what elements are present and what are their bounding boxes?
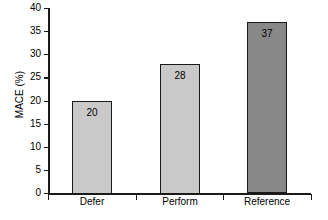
- y-tick-mark: [44, 77, 48, 78]
- y-tick-label: 0: [35, 188, 41, 198]
- y-tick-label: 5: [35, 165, 41, 175]
- y-tick-label: 30: [30, 49, 41, 59]
- y-axis-line: [48, 8, 50, 194]
- y-axis-title: MACE (%): [14, 35, 25, 155]
- y-tick-label: 35: [30, 26, 41, 36]
- plot-area: 0510152025303540 202837: [48, 8, 311, 194]
- x-axis-label-perform: Perform: [136, 196, 224, 207]
- y-tick-label: 10: [30, 142, 41, 152]
- x-axis-label-defer: Defer: [48, 196, 136, 207]
- bar-defer: 20: [72, 101, 112, 194]
- x-axis-label-reference: Reference: [223, 196, 311, 207]
- y-tick-mark: [44, 54, 48, 55]
- y-tick-mark: [44, 101, 48, 102]
- y-tick-mark: [44, 170, 48, 171]
- y-tick-label: 15: [30, 119, 41, 129]
- y-tick-mark: [44, 31, 48, 32]
- y-tick-mark: [44, 124, 48, 125]
- y-tick-label: 25: [30, 72, 41, 82]
- y-tick-label: 20: [30, 96, 41, 106]
- bar-reference: 37: [247, 22, 287, 193]
- bar-value-label: 20: [73, 107, 111, 118]
- y-tick-label: 40: [30, 3, 41, 13]
- y-tick-mark: [44, 8, 48, 9]
- x-tick-mark: [311, 194, 312, 200]
- y-tick-mark: [44, 147, 48, 148]
- bar-perform: 28: [160, 64, 200, 194]
- bar-chart: MACE (%) 0510152025303540 202837 DeferPe…: [0, 0, 328, 220]
- bar-value-label: 37: [248, 28, 286, 39]
- bar-value-label: 28: [161, 70, 199, 81]
